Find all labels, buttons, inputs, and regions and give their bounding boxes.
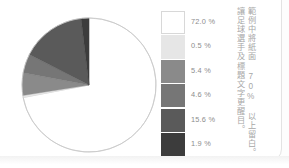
legend-item: 0.5 % [161,35,227,58]
pie-chart [14,10,164,160]
pie-slices [22,18,156,152]
legend-swatch [161,84,185,107]
legend-label: 1.9 % [191,139,211,148]
legend-label: 5.4 % [191,66,211,75]
annotation-line-1: 範例中將紙面 70% 以上留白。 [246,7,255,158]
legend-swatch [161,35,185,58]
annotation-text-block: 範例中將紙面 70% 以上留白。 讓足球選手及標題文字更醒目。 [231,7,254,159]
legend-label: 4.6 % [191,90,211,99]
legend-item: 72.0 % [161,11,227,34]
legend-label: 0.5 % [191,41,211,50]
legend-swatch [161,133,185,156]
legend-item: 1.9 % [161,133,227,156]
pie-chart-svg [14,10,164,160]
legend-swatch [161,11,185,34]
legend-item: 15.6 % [161,109,227,132]
legend-item: 4.6 % [161,84,227,107]
legend-swatch [161,60,185,83]
legend-label: 72.0 % [191,17,215,26]
annotation-line-2: 讓足球選手及標題文字更醒目。 [234,7,243,134]
legend-label: 15.6 % [191,115,215,124]
legend-item: 5.4 % [161,60,227,83]
legend-swatch [161,109,185,132]
slide-page: 72.0 %0.5 %5.4 %4.6 %15.6 %1.9 % 範例中將紙面 … [0,0,289,168]
chart-legend: 72.0 %0.5 %5.4 %4.6 %15.6 %1.9 % [161,11,227,157]
